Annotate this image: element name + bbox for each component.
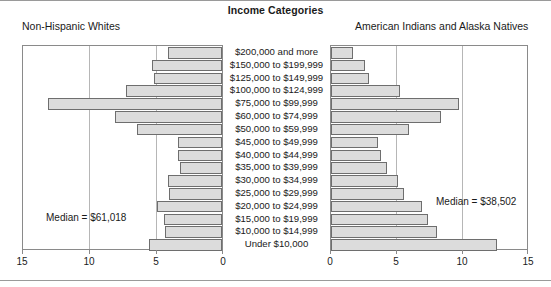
bar-row: [331, 123, 527, 137]
bar-left-10: [168, 175, 222, 187]
category-label: $25,000 to $29,999: [223, 186, 330, 200]
bar-left-7: [178, 137, 222, 149]
bar-left-12: [157, 201, 222, 213]
bar-row: [23, 187, 222, 201]
bar-row: [23, 225, 222, 239]
bar-right-12: [331, 201, 422, 213]
top-rule: [0, 0, 551, 1]
bar-left-5: [115, 111, 222, 123]
left-series-title: Non-Hispanic Whites: [22, 20, 120, 32]
category-label: $50,000 to $59,999: [223, 122, 330, 136]
category-label: $35,000 to $39,999: [223, 160, 330, 174]
axis-tick: [462, 250, 463, 254]
axis-tick: [156, 250, 157, 254]
bar-row: [331, 84, 527, 98]
bar-right-9: [331, 162, 387, 174]
bar-right-2: [331, 73, 369, 85]
bar-row: [331, 97, 527, 111]
bar-row: [331, 46, 527, 60]
category-label: $15,000 to $19,999: [223, 212, 330, 226]
bar-row: [23, 149, 222, 163]
bar-row: [23, 72, 222, 86]
category-label: $75,000 to $99,999: [223, 96, 330, 110]
bar-left-14: [165, 226, 222, 238]
category-label: $30,000 to $34,999: [223, 173, 330, 187]
right-median-annotation: Median = $38,502: [436, 196, 516, 207]
right-plot-area: [330, 45, 528, 250]
bar-row: [23, 84, 222, 98]
axis-tick-label: 10: [83, 256, 94, 267]
bar-right-1: [331, 60, 365, 72]
category-label: $125,000 to $149,999: [223, 71, 330, 85]
category-label: $45,000 to $49,999: [223, 135, 330, 149]
right-axis-tick-labels: 051015: [330, 256, 528, 270]
axis-tick-label: 10: [456, 256, 467, 267]
axis-tick: [89, 250, 90, 254]
bottom-rule: [0, 280, 551, 281]
left-axis-ticks: [22, 250, 223, 255]
category-label: $40,000 to $44,999: [223, 148, 330, 162]
bar-right-8: [331, 150, 381, 162]
bar-left-11: [169, 188, 222, 200]
bar-row: [23, 97, 222, 111]
bar-left-6: [137, 124, 222, 136]
bar-row: [331, 174, 527, 188]
category-label: $150,000 to $199,999: [223, 58, 330, 72]
bar-left-1: [152, 60, 222, 72]
axis-tick: [396, 250, 397, 254]
category-label: $200,000 and more: [223, 45, 330, 59]
category-label: $100,000 to $124,999: [223, 83, 330, 97]
axis-tick: [222, 250, 223, 254]
axis-tick-label: 5: [153, 256, 159, 267]
bar-left-8: [178, 150, 222, 162]
bar-left-0: [168, 47, 222, 59]
income-distribution-pyramid-chart: Income Categories Non-Hispanic Whites Am…: [0, 0, 551, 287]
bar-row: [331, 72, 527, 86]
right-series-title: American Indians and Alaska Natives: [355, 20, 528, 32]
axis-tick: [22, 250, 23, 254]
chart-title: Income Categories: [0, 4, 551, 16]
category-label-column: $200,000 and more$150,000 to $199,999$12…: [223, 45, 330, 250]
left-axis-tick-labels: 151050: [22, 256, 223, 270]
axis-tick: [527, 250, 528, 254]
bar-row: [23, 59, 222, 73]
bar-row: [23, 161, 222, 175]
bar-row: [331, 213, 527, 227]
bar-right-13: [331, 214, 428, 226]
bar-row: [331, 161, 527, 175]
right-axis-ticks: [330, 250, 528, 255]
bar-right-6: [331, 124, 409, 136]
bar-row: [331, 59, 527, 73]
bar-row: [23, 110, 222, 124]
bar-right-4: [331, 98, 459, 110]
bar-row: [331, 149, 527, 163]
axis-tick-label: 5: [393, 256, 399, 267]
bar-row: [331, 110, 527, 124]
axis-tick-label: 15: [522, 256, 533, 267]
axis-tick-label: 15: [16, 256, 27, 267]
axis-tick: [330, 250, 331, 254]
category-label: Under $10,000: [223, 237, 330, 251]
bar-right-3: [331, 85, 400, 97]
bar-right-14: [331, 226, 437, 238]
bar-row: [23, 46, 222, 60]
bar-right-5: [331, 111, 441, 123]
bar-row: [23, 174, 222, 188]
left-median-annotation: Median = $61,018: [46, 212, 126, 223]
category-label: $60,000 to $74,999: [223, 109, 330, 123]
bar-left-2: [154, 73, 222, 85]
axis-tick-label: 0: [327, 256, 333, 267]
bar-left-4: [48, 98, 222, 110]
bar-right-0: [331, 47, 353, 59]
axis-tick-label: 0: [220, 256, 226, 267]
bar-left-9: [180, 162, 222, 174]
bar-left-3: [126, 85, 222, 97]
bar-right-7: [331, 137, 378, 149]
bar-row: [331, 225, 527, 239]
category-label: $10,000 to $14,999: [223, 224, 330, 238]
bar-right-11: [331, 188, 404, 200]
category-label: $20,000 to $24,999: [223, 199, 330, 213]
bar-row: [23, 123, 222, 137]
bar-right-10: [331, 175, 398, 187]
bar-row: [331, 136, 527, 150]
